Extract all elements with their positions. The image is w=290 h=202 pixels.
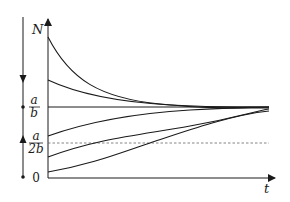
zero-label: 0	[32, 171, 40, 185]
phase-line	[20, 17, 27, 179]
solution-curves	[48, 37, 269, 172]
curve-growth-low	[48, 111, 269, 172]
svg-text:b: b	[30, 106, 38, 120]
curve-decay-high	[48, 37, 269, 108]
up-arrow-icon	[20, 135, 27, 143]
label-a-over-2b: a 2b	[27, 129, 43, 156]
x-axis-label: t	[264, 181, 270, 196]
axes	[48, 19, 275, 178]
y-axis-label: N	[31, 22, 44, 37]
svg-text:a: a	[30, 93, 37, 107]
curve-growth-middle	[48, 109, 269, 157]
logistic-diagram: N t a b a 2b 0	[0, 0, 290, 202]
curve-decay-mid	[48, 80, 269, 107]
svg-text:2b: 2b	[27, 142, 43, 156]
equilibrium-dot-zero	[21, 175, 25, 179]
equilibrium-dot-ab	[21, 105, 25, 109]
down-arrow-icon	[20, 75, 27, 83]
label-a-over-b: a b	[29, 93, 40, 120]
svg-text:a: a	[32, 129, 39, 143]
